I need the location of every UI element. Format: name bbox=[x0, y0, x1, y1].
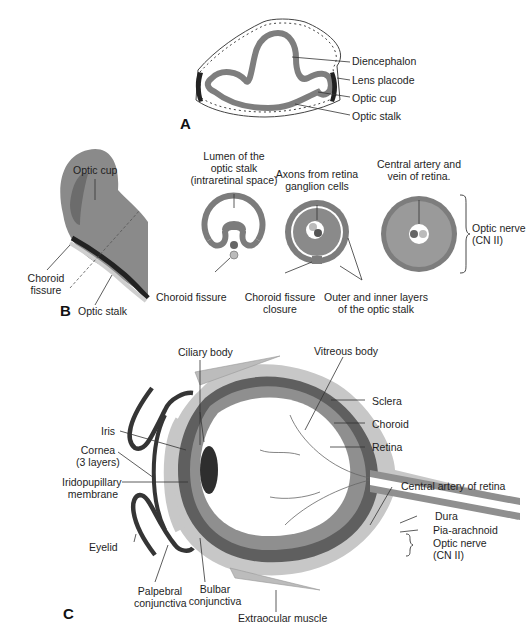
label-choroid-fissure-b1: Choroid fissure bbox=[22, 272, 70, 296]
label-optic-stalk-b: Optic stalk bbox=[78, 305, 127, 317]
label-choroid-fissure-b2: Choroid fissure bbox=[156, 291, 227, 303]
label-line: optic stalk bbox=[184, 162, 284, 174]
label-central-artery-retina: Central artery of retina bbox=[401, 480, 505, 492]
label-line: Iridopupillary bbox=[62, 476, 118, 488]
label-iridopupillary-membrane: Iridopupillary membrane bbox=[62, 476, 118, 500]
label-line: (intraretinal space) bbox=[184, 174, 284, 186]
label-line: Optic nerve bbox=[472, 222, 526, 234]
label-pia-arachnoid: Pia-arachnoid bbox=[433, 524, 498, 536]
panel-b-section-1 bbox=[205, 194, 263, 272]
label-line: Choroid fissure bbox=[240, 291, 320, 303]
label-optic-nerve-c: Optic nerve (CN II) bbox=[433, 537, 487, 561]
label-sclera: Sclera bbox=[372, 395, 402, 407]
label-line: Central artery and bbox=[374, 158, 464, 170]
label-vitreous-body: Vitreous body bbox=[314, 345, 378, 357]
label-line: conjunctiva bbox=[134, 597, 186, 609]
label-line: Outer and inner layers bbox=[318, 291, 434, 303]
label-extraocular-muscle: Extraocular muscle bbox=[238, 612, 327, 624]
label-ciliary-body: Ciliary body bbox=[178, 346, 233, 358]
label-line: closure bbox=[240, 303, 320, 315]
panel-b-section-2 bbox=[285, 200, 362, 280]
panel-letter-a: A bbox=[180, 115, 191, 132]
label-optic-stalk-a: Optic stalk bbox=[352, 110, 401, 122]
label-dura: Dura bbox=[435, 510, 458, 522]
label-eyelid: Eyelid bbox=[89, 541, 118, 553]
panel-b-section-3 bbox=[381, 195, 470, 273]
label-retina: Retina bbox=[372, 441, 402, 453]
panel-letter-b: B bbox=[60, 302, 71, 319]
label-line: (3 layers) bbox=[72, 456, 124, 468]
label-line: vein of retina. bbox=[374, 170, 464, 182]
panel-a-artwork bbox=[196, 19, 341, 117]
label-bulbar-conjunctiva: Bulbar conjunctiva bbox=[188, 583, 242, 607]
label-optic-cup-b: Optic cup bbox=[73, 164, 117, 176]
label-central-artery-vein: Central artery and vein of retina. bbox=[374, 158, 464, 182]
label-axons-ganglion: Axons from retina ganglion cells bbox=[272, 168, 362, 192]
label-line: fissure bbox=[22, 284, 70, 296]
label-line: of the optic stalk bbox=[318, 303, 434, 315]
label-diencephalon: Diencephalon bbox=[352, 55, 416, 67]
label-line: Axons from retina bbox=[272, 168, 362, 180]
label-lens-placode: Lens placode bbox=[352, 74, 414, 86]
label-line: membrane bbox=[62, 488, 118, 500]
label-iris: Iris bbox=[101, 425, 115, 437]
label-line: conjunctiva bbox=[188, 595, 242, 607]
label-palpebral-conjunctiva: Palpebral conjunctiva bbox=[134, 585, 186, 609]
label-line: (CN II) bbox=[433, 549, 487, 561]
label-line: (CN II) bbox=[472, 234, 526, 246]
label-line: Choroid bbox=[22, 272, 70, 284]
label-optic-cup-a: Optic cup bbox=[352, 92, 396, 104]
label-choroid-fissure-closure: Choroid fissure closure bbox=[240, 291, 320, 315]
label-line: Lumen of the bbox=[184, 150, 284, 162]
label-cornea: Cornea (3 layers) bbox=[72, 444, 124, 468]
label-line: Optic nerve bbox=[433, 537, 487, 549]
label-lumen-optic-stalk: Lumen of the optic stalk (intraretinal s… bbox=[184, 150, 284, 186]
label-line: Palpebral bbox=[134, 585, 186, 597]
label-line: ganglion cells bbox=[272, 180, 362, 192]
label-line: Bulbar bbox=[188, 583, 242, 595]
label-line: Cornea bbox=[72, 444, 124, 456]
label-optic-nerve-b: Optic nerve (CN II) bbox=[472, 222, 526, 246]
label-choroid: Choroid bbox=[372, 418, 409, 430]
panel-letter-c: C bbox=[63, 605, 74, 622]
label-outer-inner-layers: Outer and inner layers of the optic stal… bbox=[318, 291, 434, 315]
panel-a-leaders bbox=[292, 57, 350, 115]
